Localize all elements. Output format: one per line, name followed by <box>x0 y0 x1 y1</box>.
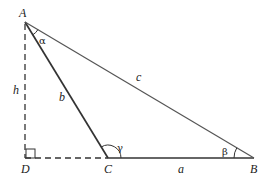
vertex-label-d: D <box>20 162 30 176</box>
side-b <box>25 22 108 158</box>
angle-arc-alpha <box>33 30 38 35</box>
vertex-label-b: B <box>250 162 258 176</box>
side-label-h: h <box>13 83 19 97</box>
side-label-c: c <box>136 70 142 84</box>
vertex-label-a: A <box>18 6 27 20</box>
angle-label-alpha: α <box>39 35 46 46</box>
angle-label-gamma: γ <box>117 142 123 153</box>
side-label-b: b <box>59 90 65 104</box>
right-angle-marker <box>26 149 35 158</box>
vertex-label-c: C <box>104 162 113 176</box>
side-label-a: a <box>178 162 184 176</box>
triangle-diagram: A B C D a b c h α β γ <box>0 0 267 178</box>
angle-arc-beta <box>234 148 237 158</box>
angle-label-beta: β <box>222 146 228 157</box>
